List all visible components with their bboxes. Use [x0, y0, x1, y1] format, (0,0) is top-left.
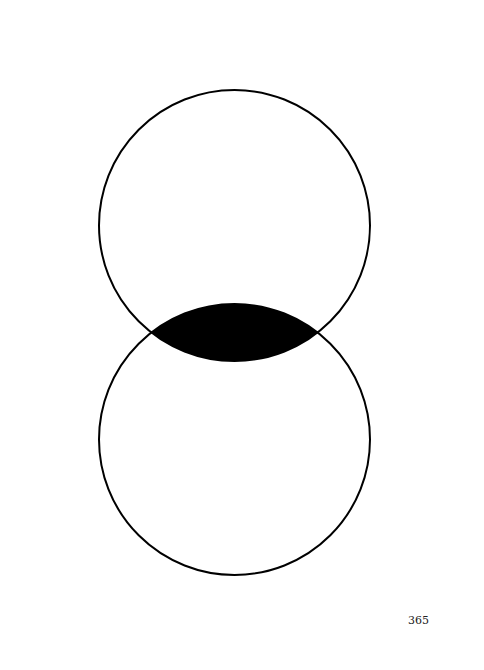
page-number: 365: [408, 614, 429, 627]
venn-diagram: [0, 0, 484, 670]
intersection-lens: [99, 304, 370, 575]
